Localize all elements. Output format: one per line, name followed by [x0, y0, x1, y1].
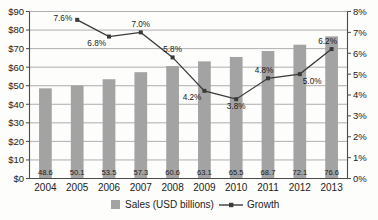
growth-marker-2009 [202, 89, 206, 93]
growth-label-2010: 3.8% [227, 102, 246, 111]
y-right-tick-6%: 6% [353, 48, 367, 59]
bar-2013 [325, 36, 338, 178]
growth-label-2013: 6.2% [318, 37, 337, 46]
growth-marker-2010 [234, 97, 238, 101]
y-left-tick-$60: $60 [8, 62, 24, 73]
sales-growth-combo-chart: $0$10$20$30$40$50$60$70$80$90 0%1%2%3%4%… [0, 0, 378, 220]
x-tick-2008: 2008 [161, 182, 184, 193]
growth-label-2011: 4.8% [255, 66, 274, 75]
y-left-tick-$50: $50 [8, 80, 24, 91]
x-tick-2009: 2009 [193, 182, 216, 193]
bar-2009 [198, 61, 211, 178]
bar-2006 [103, 79, 116, 178]
y-right-tick-3%: 3% [353, 110, 367, 121]
bar-value-2007: 57.3 [133, 168, 148, 177]
legend-label-growth: Growth [247, 199, 279, 210]
y-axis-right-tick-labels: 0%1%2%3%4%5%6%7%8% [353, 6, 367, 184]
y-left-tick-$0: $0 [13, 173, 24, 184]
x-tick-2007: 2007 [130, 182, 153, 193]
bar-2004 [39, 88, 52, 178]
y-right-tick-8%: 8% [353, 6, 367, 17]
bar-2005 [71, 86, 84, 179]
y-right-tick-0%: 0% [353, 173, 367, 184]
growth-label-2012: 5.0% [303, 77, 322, 86]
chart-legend: Sales (USD billions)Growth [111, 199, 279, 210]
growth-label-2006: 6.8% [87, 39, 106, 48]
y-left-tick-$90: $90 [8, 6, 24, 17]
x-tick-2006: 2006 [98, 182, 121, 193]
y-right-tick-4%: 4% [353, 89, 367, 100]
x-tick-2004: 2004 [34, 182, 57, 193]
y-left-tick-$70: $70 [8, 43, 24, 54]
growth-label-2008: 5.8% [163, 45, 182, 54]
bar-value-2008: 60.6 [165, 168, 180, 177]
x-tick-2011: 2011 [257, 182, 279, 193]
bar-value-2012: 72.1 [292, 168, 307, 177]
bar-2012 [293, 45, 306, 179]
legend-swatch-sales [111, 200, 120, 209]
growth-label-2005: 7.6% [54, 14, 73, 23]
y-left-tick-$80: $80 [8, 24, 24, 35]
x-tick-2012: 2012 [289, 182, 312, 193]
bar-2007 [134, 72, 147, 178]
growth-label-2007: 7.0% [131, 20, 150, 29]
y-right-tick-1%: 1% [353, 152, 367, 163]
legend-label-sales: Sales (USD billions) [125, 199, 214, 210]
bar-2008 [166, 66, 179, 178]
growth-marker-2012 [298, 72, 302, 76]
growth-marker-2007 [139, 30, 143, 34]
y-left-tick-$10: $10 [8, 154, 24, 165]
y-right-tick-5%: 5% [353, 69, 367, 80]
legend-marker-growth [229, 203, 233, 207]
growth-marker-2011 [266, 76, 270, 80]
y-right-tick-2%: 2% [353, 131, 367, 142]
growth-label-2009: 4.2% [183, 93, 202, 102]
bar-value-2011: 68.7 [261, 168, 276, 177]
bar-value-2004: 48.6 [38, 168, 53, 177]
y-left-tick-$20: $20 [8, 136, 24, 147]
bar-value-2006: 53.5 [102, 168, 117, 177]
x-tick-2013: 2013 [320, 182, 343, 193]
y-left-tick-$40: $40 [8, 99, 24, 110]
x-tick-2010: 2010 [225, 182, 248, 193]
bar-value-2010: 65.5 [229, 168, 244, 177]
growth-marker-2008 [171, 55, 175, 59]
growth-marker-2005 [75, 18, 79, 22]
growth-marker-2006 [107, 35, 111, 39]
bar-value-2005: 50.1 [70, 168, 85, 177]
x-tick-2005: 2005 [66, 182, 89, 193]
bar-2010 [230, 57, 243, 179]
y-right-tick-7%: 7% [353, 27, 367, 38]
y-left-tick-$30: $30 [8, 117, 24, 128]
bar-value-2013: 76.6 [324, 168, 339, 177]
bar-value-2009: 63.1 [197, 168, 212, 177]
growth-marker-2013 [330, 47, 334, 51]
